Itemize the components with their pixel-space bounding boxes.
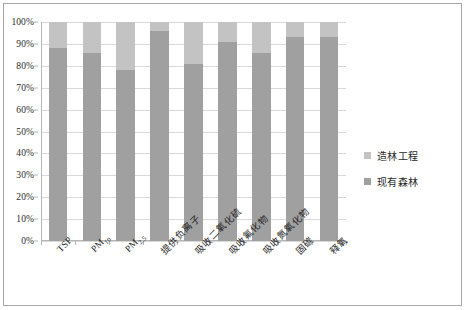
bar-stack[interactable] bbox=[49, 22, 68, 241]
bar-slot bbox=[312, 22, 346, 241]
y-tick-mark bbox=[34, 65, 38, 66]
bar-stack[interactable] bbox=[184, 22, 203, 241]
chart-legend: 造林工程现有森林 bbox=[364, 148, 460, 200]
bar-segment-afforestation[interactable] bbox=[218, 22, 237, 42]
y-tick-mark bbox=[34, 219, 38, 220]
legend-label: 现有森林 bbox=[377, 174, 418, 189]
y-tick-label: 0% bbox=[21, 236, 34, 246]
bar-segment-afforestation[interactable] bbox=[252, 22, 271, 53]
y-tick-mark bbox=[34, 43, 38, 44]
bar-slot bbox=[177, 22, 211, 241]
y-tick-mark bbox=[34, 175, 38, 176]
bar-stack[interactable] bbox=[150, 22, 169, 241]
bar-slot bbox=[41, 22, 75, 241]
legend-label: 造林工程 bbox=[377, 148, 418, 163]
bar-segment-afforestation[interactable] bbox=[286, 22, 305, 37]
y-tick-label: 100% bbox=[11, 17, 34, 27]
y-tick-label: 70% bbox=[16, 83, 34, 93]
bar-segment-afforestation[interactable] bbox=[150, 22, 169, 31]
y-tick-mark bbox=[34, 153, 38, 154]
legend-swatch-icon bbox=[364, 178, 371, 185]
x-axis-labels: TSPPM10PM2.5提供负离子吸收二氧化硫吸收氟化物吸收氮氧化物固碳释氧 bbox=[41, 245, 346, 309]
y-axis: 100%90%80%70%60%50%40%30%20%10%0% bbox=[0, 22, 38, 241]
y-tick-mark bbox=[34, 87, 38, 88]
bar-segment-existing-forest[interactable] bbox=[83, 53, 102, 241]
y-tick-mark bbox=[34, 197, 38, 198]
y-tick-mark bbox=[34, 22, 38, 23]
y-tick-label: 80% bbox=[16, 61, 34, 71]
y-tick-label: 90% bbox=[16, 39, 34, 49]
legend-swatch-icon bbox=[364, 152, 371, 159]
y-tick-label: 20% bbox=[16, 192, 34, 202]
bar-slot bbox=[75, 22, 109, 241]
bar-slot bbox=[244, 22, 278, 241]
bar-stack[interactable] bbox=[252, 22, 271, 241]
bar-slot bbox=[143, 22, 177, 241]
legend-item[interactable]: 现有森林 bbox=[364, 174, 460, 189]
bar-segment-afforestation[interactable] bbox=[184, 22, 203, 64]
bar-stack[interactable] bbox=[320, 22, 339, 241]
bar-segment-existing-forest[interactable] bbox=[150, 31, 169, 241]
y-tick-label: 30% bbox=[16, 170, 34, 180]
legend-item[interactable]: 造林工程 bbox=[364, 148, 460, 163]
bar-slot bbox=[109, 22, 143, 241]
y-tick-mark bbox=[34, 109, 38, 110]
y-tick-mark bbox=[34, 131, 38, 132]
bar-stack[interactable] bbox=[83, 22, 102, 241]
y-tick-label: 60% bbox=[16, 105, 34, 115]
bar-segment-afforestation[interactable] bbox=[116, 22, 135, 70]
y-tick-mark bbox=[34, 241, 38, 242]
bar-stack[interactable] bbox=[116, 22, 135, 241]
chart-container: 100%90%80%70%60%50%40%30%20%10%0% TSPPM1… bbox=[0, 0, 466, 310]
bar-segment-existing-forest[interactable] bbox=[320, 37, 339, 241]
y-tick-label: 40% bbox=[16, 148, 34, 158]
y-tick-label: 50% bbox=[16, 127, 34, 137]
bar-segment-existing-forest[interactable] bbox=[116, 70, 135, 241]
bar-segment-existing-forest[interactable] bbox=[49, 48, 68, 241]
bar-segment-afforestation[interactable] bbox=[83, 22, 102, 53]
bar-segment-afforestation[interactable] bbox=[49, 22, 68, 48]
bar-segment-afforestation[interactable] bbox=[320, 22, 339, 37]
y-tick-label: 10% bbox=[16, 214, 34, 224]
